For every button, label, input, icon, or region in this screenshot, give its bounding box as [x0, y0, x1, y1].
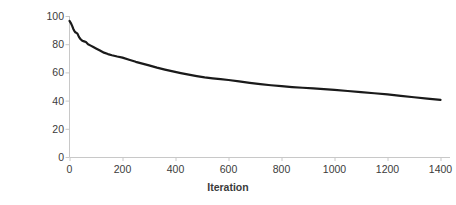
x-axis-title: Iteration [0, 181, 456, 193]
x-tick-label: 1000 [315, 164, 355, 175]
x-axis-tick-labels: 0200400600800100012001400 [0, 164, 456, 180]
x-tick-label: 1400 [421, 164, 456, 175]
x-tick-label: 800 [262, 164, 302, 175]
chart-container: Deviation from 8.5 hours (min) 020406080… [0, 0, 456, 205]
x-tick-label: 400 [156, 164, 196, 175]
x-tick-label: 1200 [368, 164, 408, 175]
x-tick-label: 0 [50, 164, 90, 175]
x-tick-label: 200 [103, 164, 143, 175]
x-tick-label: 600 [209, 164, 249, 175]
axis-lines [70, 16, 451, 158]
data-line-deviation [70, 21, 441, 100]
y-axis-ticks [66, 17, 70, 158]
